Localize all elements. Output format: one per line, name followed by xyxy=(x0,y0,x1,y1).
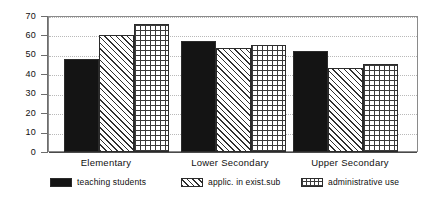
x-axis-label-lower-secondary: Lower Secondary xyxy=(165,157,295,168)
legend-label-administrative-use: administrative use xyxy=(328,177,399,187)
bar-group-lower-secondary xyxy=(181,16,286,152)
y-axis-label-10: 10 xyxy=(0,128,36,137)
legend-item-administrative-use: administrative use xyxy=(301,176,399,188)
y-tick-30 xyxy=(41,94,47,95)
y-axis-label-70: 70 xyxy=(0,12,36,21)
bar-upper-secondary-applic-in-exist-sub[interactable] xyxy=(328,68,363,153)
y-axis-label-40: 40 xyxy=(0,70,36,79)
bar-upper-secondary-administrative-use[interactable] xyxy=(363,64,398,152)
bar-lower-secondary-applic-in-exist-sub[interactable] xyxy=(216,48,251,152)
y-tick-10 xyxy=(41,133,47,134)
legend-label-teaching-students: teaching students xyxy=(77,177,146,187)
y-axis-label-50: 50 xyxy=(0,50,36,59)
legend-swatch-crosshatch-grid-icon xyxy=(301,178,323,187)
bar-elementary-applic-in-exist-sub[interactable] xyxy=(99,35,134,152)
bar-chart: 70 60 50 40 30 20 10 0 Elementary Lower … xyxy=(0,0,444,199)
legend-swatch-diagonal-hatch-icon xyxy=(181,178,203,187)
chart-legend: teaching students applic. in exist.sub a… xyxy=(0,176,444,190)
legend-item-teaching-students: teaching students xyxy=(50,176,146,188)
y-tick-20 xyxy=(41,113,47,114)
y-axis-label-30: 30 xyxy=(0,89,36,98)
bar-lower-secondary-teaching-students[interactable] xyxy=(181,41,216,152)
legend-swatch-solid-black-icon xyxy=(50,178,72,187)
y-axis-label-60: 60 xyxy=(0,31,36,40)
y-axis-label-20: 20 xyxy=(0,109,36,118)
bars-layer xyxy=(48,16,418,152)
legend-item-applic-in-exist-sub: applic. in exist.sub xyxy=(181,176,280,188)
y-tick-0 xyxy=(41,152,47,153)
bar-lower-secondary-administrative-use[interactable] xyxy=(251,45,286,152)
bar-upper-secondary-teaching-students[interactable] xyxy=(293,51,328,152)
y-tick-40 xyxy=(41,74,47,75)
legend-label-applic-in-exist-sub: applic. in exist.sub xyxy=(208,177,280,187)
bar-group-elementary xyxy=(64,16,169,152)
x-axis-label-elementary: Elementary xyxy=(46,157,166,168)
y-tick-60 xyxy=(41,35,47,36)
y-axis-label-0: 0 xyxy=(0,148,36,157)
y-tick-50 xyxy=(41,55,47,56)
bar-elementary-administrative-use[interactable] xyxy=(134,24,169,152)
bar-elementary-teaching-students[interactable] xyxy=(64,59,99,152)
x-axis-label-upper-secondary: Upper Secondary xyxy=(285,157,415,168)
y-tick-70 xyxy=(41,16,47,17)
gridline-0 xyxy=(49,152,417,153)
bar-group-upper-secondary xyxy=(293,16,398,152)
